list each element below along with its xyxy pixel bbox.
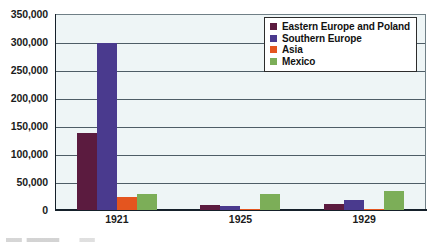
legend-item[interactable]: Mexico: [270, 56, 410, 68]
y-tick-label: 350,000: [11, 8, 48, 20]
bar: [344, 200, 364, 210]
bar: [384, 191, 404, 210]
legend-swatch-icon: [270, 58, 277, 65]
legend-label: Eastern Europe and Poland: [282, 21, 410, 32]
legend-item[interactable]: Eastern Europe and Poland: [270, 21, 410, 33]
x-tick-label: 1921: [105, 213, 128, 225]
bar: [324, 204, 344, 210]
chart-legend: Eastern Europe and PolandSouthern Europe…: [264, 17, 417, 72]
y-tick-label: 150,000: [11, 120, 48, 132]
legend-item[interactable]: Asia: [270, 44, 410, 56]
legend-swatch-icon: [270, 23, 277, 30]
y-tick-label: 250,000: [11, 64, 48, 76]
y-tick-label: 50,000: [16, 176, 48, 188]
legend-label: Mexico: [282, 56, 315, 67]
bar: [117, 197, 137, 210]
bar: [200, 205, 220, 210]
y-tick-label: 100,000: [11, 148, 48, 160]
x-tick-label: 1925: [229, 213, 252, 225]
y-axis-tick-labels: 050,000100,000150,000200,000250,000300,0…: [0, 0, 52, 222]
bar: [137, 194, 157, 210]
scan-artifact: [6, 238, 102, 242]
bar-chart: 050,000100,000150,000200,000250,000300,0…: [0, 0, 435, 247]
legend-item[interactable]: Southern Europe: [270, 33, 410, 45]
bar: [77, 133, 97, 210]
y-tick-label: 0: [42, 204, 48, 216]
bar-group: [55, 14, 179, 210]
y-tick-label: 200,000: [11, 92, 48, 104]
y-tick-label: 300,000: [11, 36, 48, 48]
x-tick-label: 1929: [352, 213, 375, 225]
legend-label: Southern Europe: [282, 33, 362, 44]
bar: [364, 209, 384, 211]
x-axis-tick-labels: 192119251929: [55, 213, 426, 231]
bar: [240, 209, 260, 211]
bar: [220, 206, 240, 210]
legend-swatch-icon: [270, 46, 277, 53]
bar: [97, 43, 117, 210]
bar: [260, 194, 280, 210]
legend-swatch-icon: [270, 35, 277, 42]
legend-label: Asia: [282, 44, 303, 55]
